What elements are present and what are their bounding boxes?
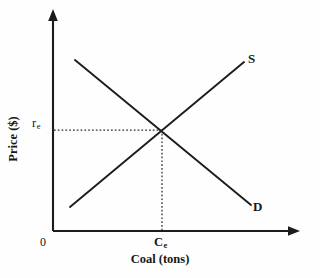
y-axis-title: Price ($) bbox=[7, 116, 20, 161]
x-axis-title: Coal (tons) bbox=[0, 253, 320, 266]
equilibrium-quantity-base: C bbox=[154, 235, 163, 249]
demand-curve-label: D bbox=[253, 200, 262, 213]
x-axis-arrow-icon bbox=[288, 226, 300, 236]
demand-curve bbox=[75, 60, 251, 205]
equilibrium-quantity-label: Ce bbox=[154, 236, 167, 249]
supply-curve-label: S bbox=[248, 52, 255, 65]
y-axis-arrow-icon bbox=[48, 9, 58, 21]
origin-label: 0 bbox=[40, 236, 46, 248]
supply-curve bbox=[70, 62, 244, 207]
equilibrium-price-subscript: e bbox=[36, 121, 40, 131]
equilibrium-price-label: re bbox=[32, 117, 41, 130]
supply-demand-chart: S D 0 re Ce Coal (tons) Price ($) bbox=[0, 0, 320, 278]
equilibrium-quantity-subscript: e bbox=[163, 240, 167, 250]
